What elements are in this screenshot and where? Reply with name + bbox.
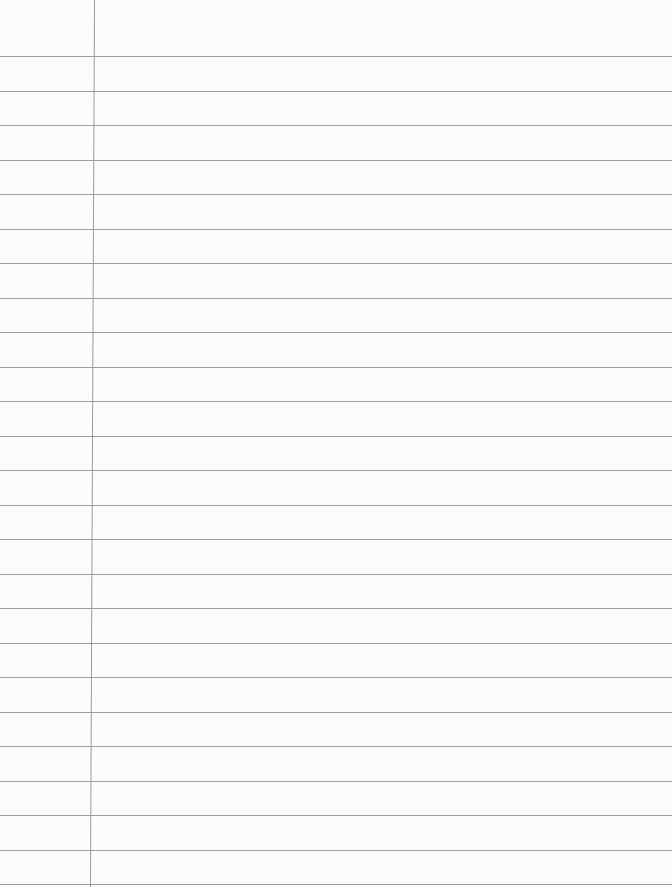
ruled-line — [0, 401, 672, 402]
ruled-line — [0, 194, 672, 195]
ruled-line — [0, 884, 672, 885]
ruled-line — [0, 470, 672, 471]
ruled-line — [0, 56, 672, 57]
ruled-line — [0, 263, 672, 264]
ruled-line — [0, 850, 672, 851]
ruled-line — [0, 677, 672, 678]
ruled-line — [0, 298, 672, 299]
ruled-line — [0, 781, 672, 782]
ruled-line — [0, 643, 672, 644]
ruled-line — [0, 91, 672, 92]
ruled-line — [0, 712, 672, 713]
ruled-line — [0, 229, 672, 230]
ruled-line — [0, 746, 672, 747]
ruled-line — [0, 125, 672, 126]
ruled-line — [0, 505, 672, 506]
lined-paper-sheet — [0, 0, 672, 887]
ruled-line — [0, 160, 672, 161]
ruled-line — [0, 608, 672, 609]
ruled-line — [0, 574, 672, 575]
ruled-line — [0, 436, 672, 437]
ruled-line — [0, 332, 672, 333]
ruled-line — [0, 367, 672, 368]
margin-line — [90, 0, 95, 887]
ruled-line — [0, 815, 672, 816]
ruled-line — [0, 539, 672, 540]
